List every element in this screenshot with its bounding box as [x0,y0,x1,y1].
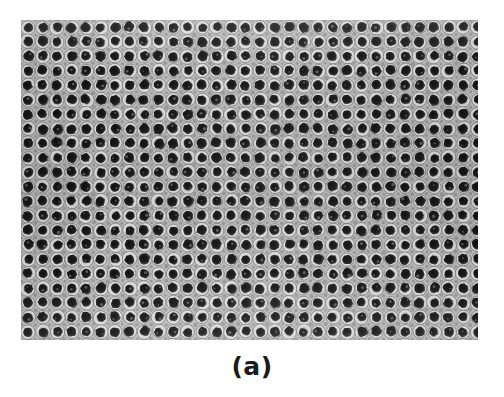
figure-caption: (a) [0,352,504,382]
figure-root: (a) [0,0,504,397]
sem-micrograph-image [21,20,478,340]
micrograph-canvas [21,20,478,340]
